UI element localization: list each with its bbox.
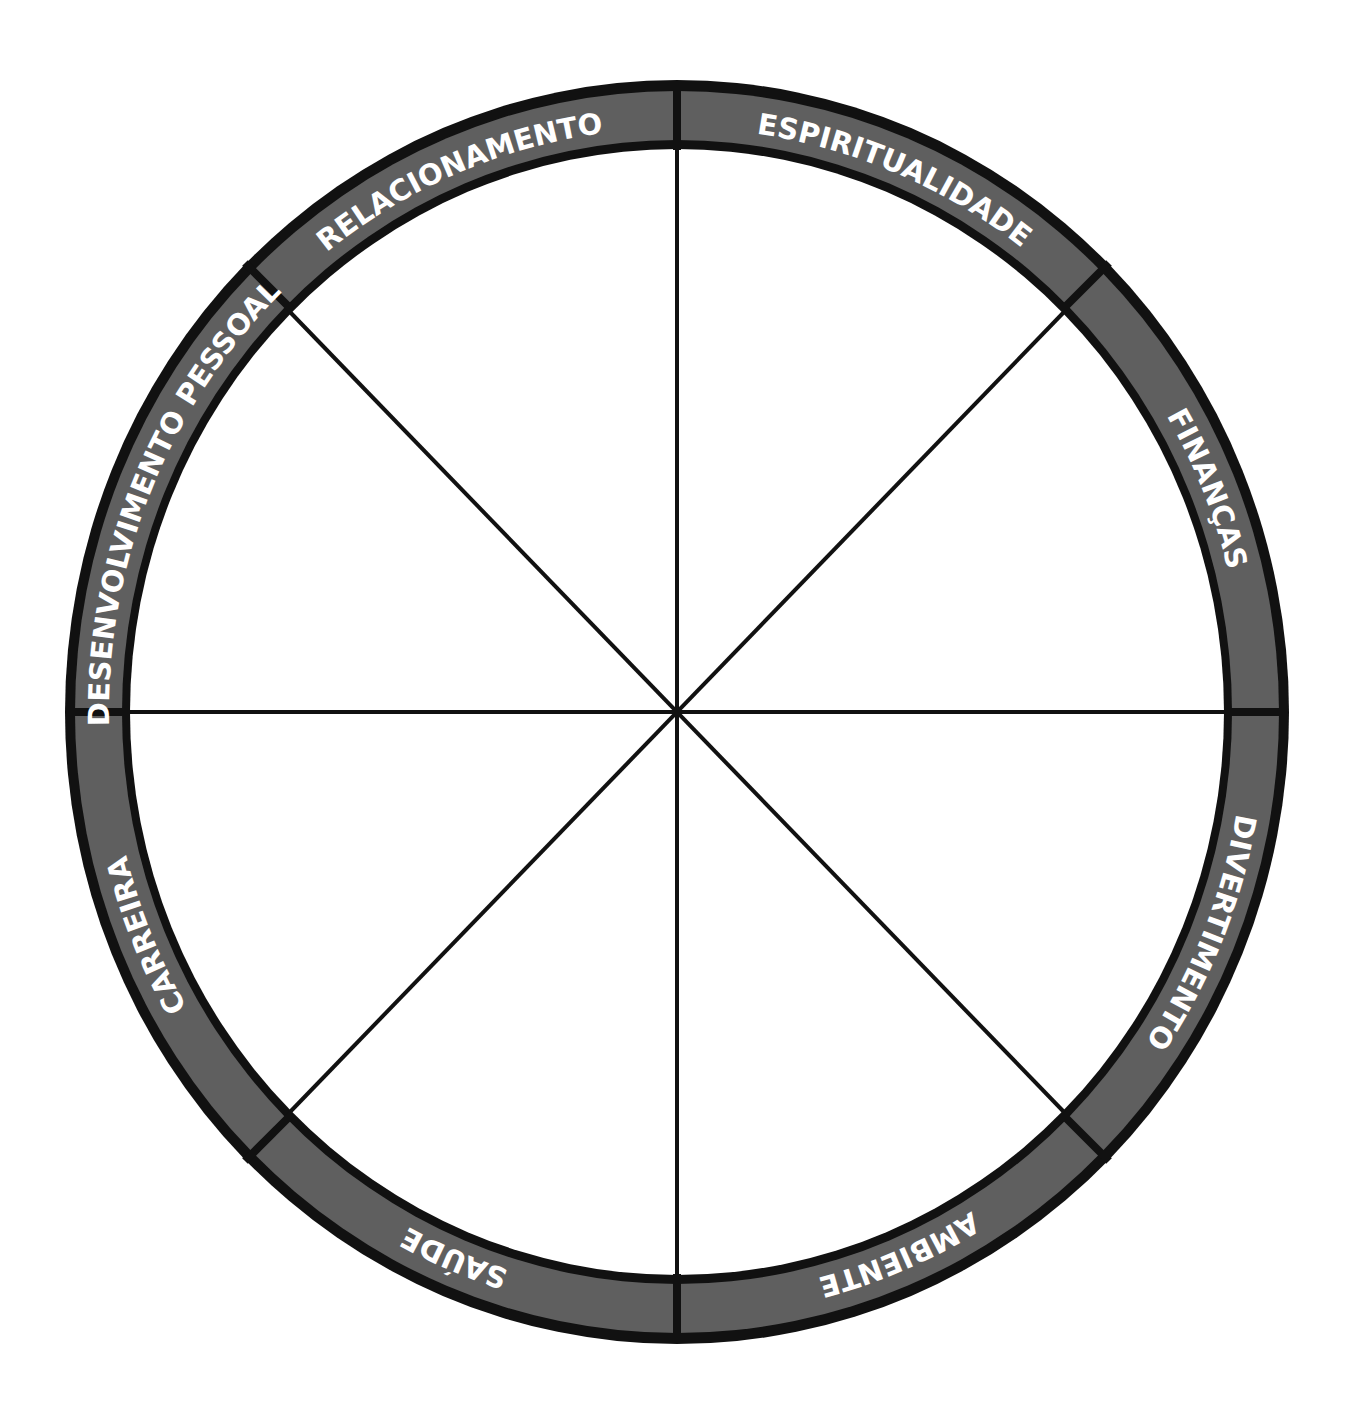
- wheel-of-life-diagram: RELACIONAMENTO ESPIRITUALIDADE FINANÇAS …: [0, 0, 1351, 1416]
- center-hub: [673, 708, 681, 716]
